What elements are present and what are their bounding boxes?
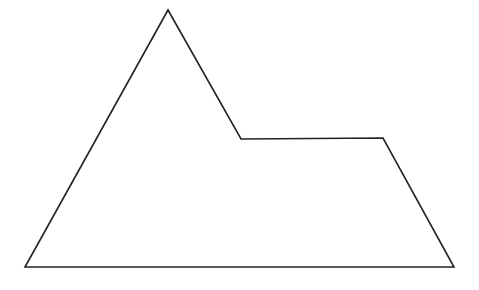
diagram-canvas [0,0,479,290]
pentagon-shape [25,10,454,267]
